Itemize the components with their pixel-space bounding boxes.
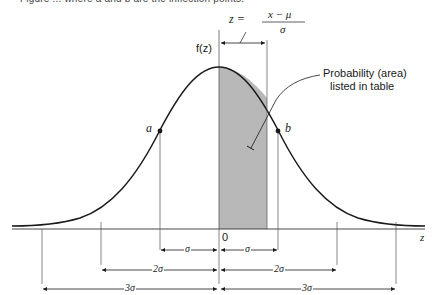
formula-lhs: z = <box>229 12 245 27</box>
sigma-right-label: σ <box>244 243 251 254</box>
sigma-left-label: σ <box>184 243 191 254</box>
inflection-point-a <box>158 129 163 134</box>
three-sigma-right-label: 3σ <box>301 282 313 293</box>
three-sigma-left-label: 3σ <box>124 282 136 293</box>
two-sigma-left-label: 2σ <box>152 263 164 274</box>
shaded-probability-area <box>219 67 267 229</box>
formula-pointer <box>240 32 246 43</box>
two-sigma-right-label: 2σ <box>273 263 285 274</box>
formula-denominator: σ <box>280 23 285 35</box>
normal-distribution-diagram <box>0 0 435 295</box>
annotation-line1: Probability (area) <box>323 67 407 79</box>
y-axis-label: f(z) <box>196 42 212 54</box>
point-b-label: b <box>285 121 291 136</box>
annotation-line2: listed in table <box>330 80 394 92</box>
x-axis-label: z <box>420 231 424 243</box>
origin-label: 0 <box>222 231 228 243</box>
inflection-point-b <box>276 129 281 134</box>
formula-numerator: x − μ <box>268 8 291 20</box>
point-a-label: a <box>146 121 152 136</box>
